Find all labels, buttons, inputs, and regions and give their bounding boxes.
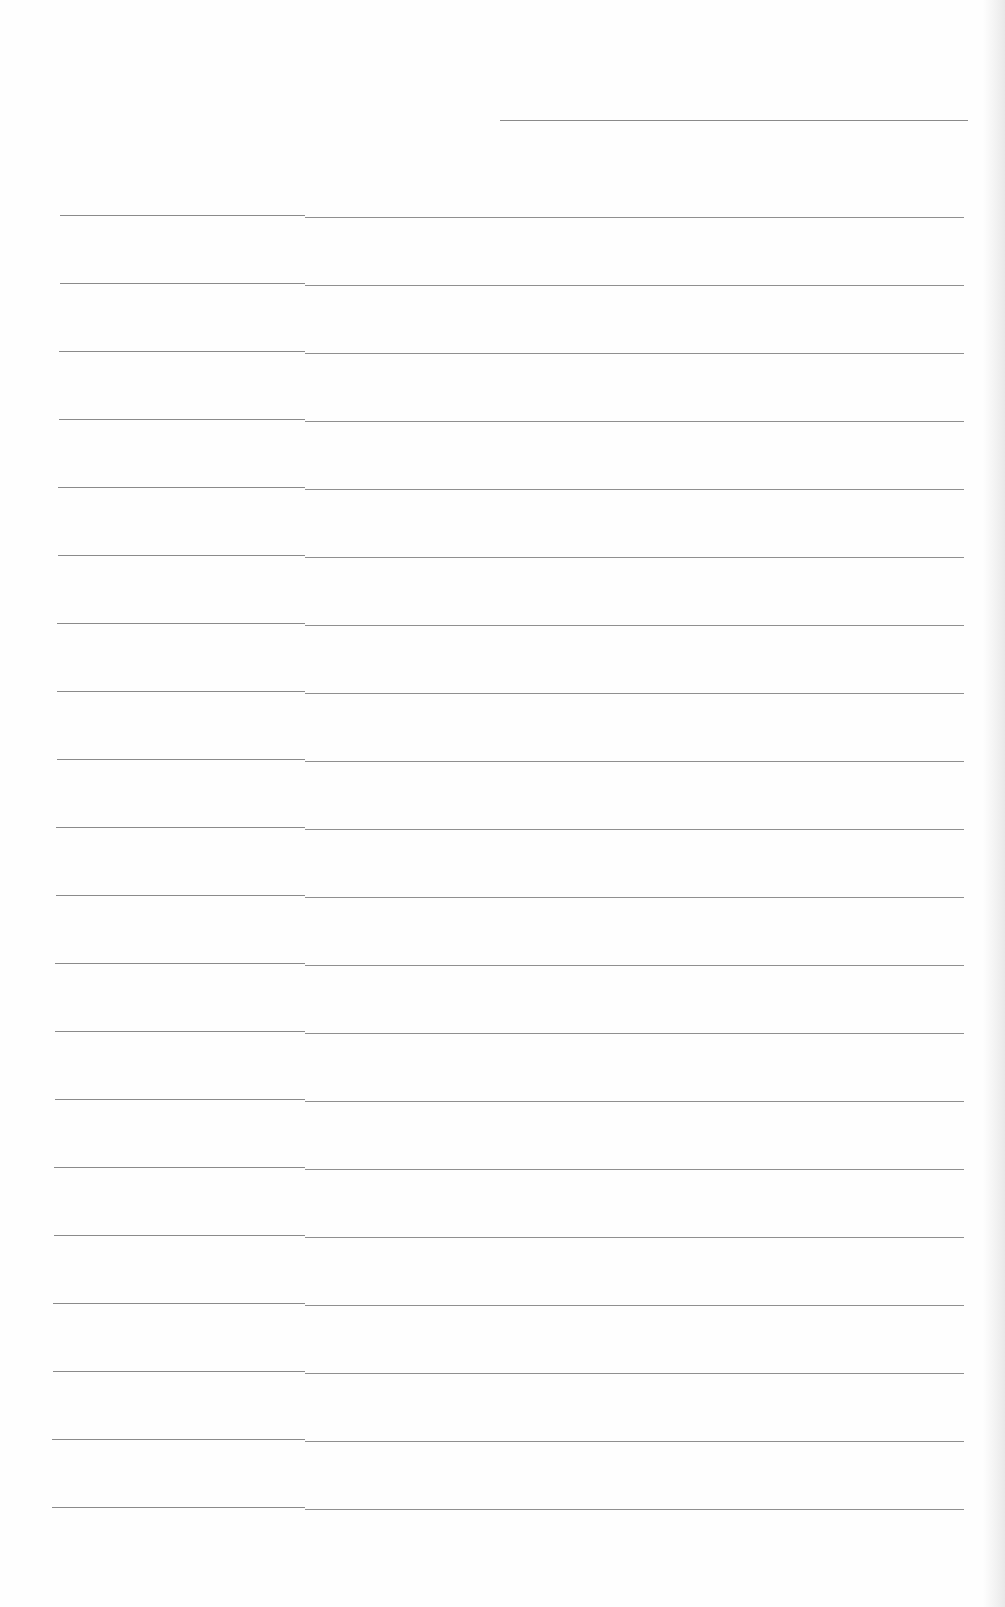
ruled-line — [60, 283, 305, 284]
ruled-line-segment — [305, 965, 964, 966]
ruled-line-segment — [305, 693, 964, 694]
ruled-line — [52, 1439, 305, 1440]
ruled-line — [58, 487, 305, 488]
ruled-line-segment — [305, 897, 964, 898]
ruled-line — [59, 419, 305, 420]
ruled-line-segment — [305, 285, 964, 286]
ruled-line-segment — [305, 489, 964, 490]
ruled-line — [57, 759, 305, 760]
header-rule — [500, 120, 968, 121]
ruled-line — [54, 1235, 305, 1236]
ruled-line-segment — [305, 1509, 964, 1510]
ruled-line — [58, 555, 305, 556]
ruled-line-segment — [305, 1237, 964, 1238]
ruled-line — [57, 691, 305, 692]
ruled-line — [56, 827, 305, 828]
ruled-line — [59, 351, 305, 352]
ruled-line-segment — [305, 1101, 964, 1102]
ruled-line-segment — [305, 829, 964, 830]
ruled-line — [53, 1371, 305, 1372]
ruled-line — [55, 963, 305, 964]
ruled-line — [53, 1303, 305, 1304]
ruled-line — [54, 1167, 305, 1168]
ruled-line-segment — [305, 1373, 964, 1374]
ruled-line-segment — [305, 761, 964, 762]
ruled-line-segment — [305, 557, 964, 558]
ruled-line-segment — [305, 353, 964, 354]
ruled-line — [52, 1507, 305, 1508]
scan-edge-shadow — [983, 0, 1005, 1607]
ruled-line-segment — [305, 217, 964, 218]
ruled-line-segment — [305, 1169, 964, 1170]
ruled-line-segment — [305, 1305, 964, 1306]
ruled-line-segment — [305, 421, 964, 422]
ruled-line-segment — [305, 625, 964, 626]
ruled-line-segment — [305, 1441, 964, 1442]
ruled-line — [60, 215, 305, 216]
ruled-line — [57, 623, 305, 624]
lined-paper-page — [0, 0, 1005, 1607]
ruled-line — [55, 1099, 305, 1100]
ruled-line-segment — [305, 1033, 964, 1034]
ruled-line — [55, 1031, 305, 1032]
ruled-line — [56, 895, 305, 896]
